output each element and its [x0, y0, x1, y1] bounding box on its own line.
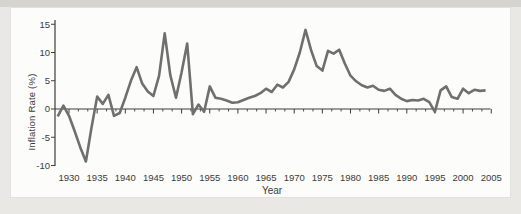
x-axis-title: Year [262, 185, 282, 196]
y-axis-title: Inflation Rate (%) [26, 74, 37, 151]
x-tick-label: 1960 [227, 172, 248, 183]
x-tick-label: 1970 [284, 172, 305, 183]
x-tick-label: 1980 [340, 172, 361, 183]
x-tick-label: 1965 [255, 172, 276, 183]
x-tick-label: 1975 [312, 172, 333, 183]
y-tick-label: -10 [36, 160, 50, 171]
x-tick-label: 1945 [143, 172, 164, 183]
x-tick-label: 1990 [396, 172, 417, 183]
inflation-rate-line [58, 30, 486, 162]
y-tick-label: 10 [39, 47, 50, 58]
y-tick-label: 5 [45, 75, 50, 86]
x-tick-label: 2005 [481, 172, 502, 183]
x-tick-label: 1955 [199, 172, 220, 183]
x-tick-label: 1935 [87, 172, 108, 183]
x-tick-label: 1995 [424, 172, 445, 183]
x-tick-label: 1985 [368, 172, 389, 183]
inflation-line-chart: 151050-5-1019301935194019451950195519601… [0, 0, 521, 214]
x-tick-label: 1950 [171, 172, 192, 183]
y-tick-label: 15 [39, 19, 50, 30]
page: { "figure": { "xlabel": "Year", "ylabel"… [0, 0, 521, 214]
x-tick-label: 1940 [115, 172, 136, 183]
y-tick-label: -5 [42, 132, 50, 143]
x-tick-label: 2000 [453, 172, 474, 183]
x-tick-label: 1930 [58, 172, 79, 183]
y-tick-label: 0 [45, 103, 50, 114]
